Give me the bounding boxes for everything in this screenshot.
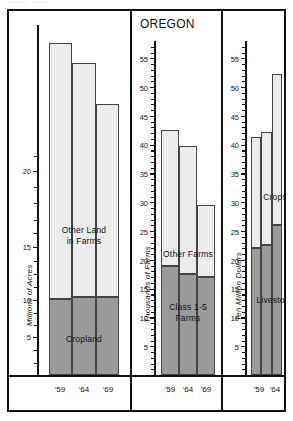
- segment-label-other-land: Other Land in Farms: [62, 225, 107, 247]
- y-tick-minor: [242, 70, 245, 71]
- segment-label-crops: Crops: [263, 192, 284, 203]
- y-tick-label: 45: [132, 112, 148, 121]
- y-tick-major: [241, 87, 246, 88]
- y-tick-major: [150, 58, 155, 59]
- y-tick-minor: [151, 76, 154, 77]
- y-tick-minor: [242, 352, 245, 353]
- segment-label-livestock: Livestock: [256, 295, 284, 306]
- y-tick-minor: [34, 363, 37, 364]
- y-tick-minor: [242, 243, 245, 244]
- x-tick-label: '59: [55, 385, 65, 394]
- y-tick-minor: [242, 127, 245, 128]
- y-tick-major: [241, 173, 246, 174]
- y-tick-minor: [34, 203, 37, 204]
- y-tick-major: [150, 202, 155, 203]
- y-tick-minor: [151, 104, 154, 105]
- y-tick-major: [150, 346, 155, 347]
- y-tick-label: 5: [132, 343, 148, 352]
- y-tick-minor: [242, 104, 245, 105]
- bar-segment-livestock: [251, 248, 261, 375]
- y-tick-label: 5: [223, 343, 239, 352]
- y-tick-major: [241, 202, 246, 203]
- y-axis-title-3: Ten Million Dollars: [234, 252, 243, 321]
- bar-segment-crops: [261, 132, 271, 245]
- panel-number-of-farms: OREGON 55 50 45 40 35 30 25 20 15 10: [132, 11, 221, 410]
- bar-segment-livestock: [261, 245, 271, 375]
- y-tick-label: 20: [11, 167, 31, 176]
- y-tick-major: [241, 346, 246, 347]
- y-tick-minor: [34, 187, 37, 188]
- y-tick-minor: [242, 214, 245, 215]
- y-tick-minor: [151, 47, 154, 48]
- y-tick-minor: [242, 335, 245, 336]
- x-tick-label: '64: [79, 385, 89, 394]
- y-tick-minor: [151, 110, 154, 111]
- y-axis-title-2: Thousands of Farms: [143, 246, 152, 323]
- y-tick-major: [150, 87, 155, 88]
- y-tick-minor: [242, 225, 245, 226]
- y-tick-minor: [151, 191, 154, 192]
- y-tick-minor: [151, 243, 154, 244]
- y-tick-minor: [151, 139, 154, 140]
- y-tick-label: 25: [223, 227, 239, 236]
- y-tick-label: 25: [132, 227, 148, 236]
- y-tick-minor: [242, 358, 245, 359]
- y-tick-minor: [151, 335, 154, 336]
- y-tick-minor: [151, 197, 154, 198]
- y-tick-minor: [242, 81, 245, 82]
- y-tick-minor: [242, 93, 245, 94]
- y-tick-minor: [151, 156, 154, 157]
- x-axis-band-3: '59 '64 '69: [223, 376, 284, 410]
- y-axis-spine-2: [154, 41, 156, 375]
- y-tick-minor: [151, 168, 154, 169]
- y-tick-major: [150, 116, 155, 117]
- y-tick-major: [241, 145, 246, 146]
- y-tick-label: 30: [223, 199, 239, 208]
- y-tick-minor: [242, 156, 245, 157]
- y-tick-label: 5: [11, 333, 31, 342]
- y-axis-title-1: Millions of Acres: [25, 265, 34, 326]
- y-tick-minor: [242, 237, 245, 238]
- y-tick-minor: [151, 225, 154, 226]
- y-axis-spine-3: [245, 41, 247, 375]
- y-tick-minor: [242, 64, 245, 65]
- y-tick-minor: [34, 287, 37, 288]
- y-tick-minor: [242, 168, 245, 169]
- segment-label-line1: Class 1-5: [169, 302, 207, 312]
- y-axis-spine-1: [37, 25, 39, 375]
- y-tick-label: 35: [132, 170, 148, 179]
- y-tick-minor: [151, 150, 154, 151]
- y-tick-minor: [242, 329, 245, 330]
- y-tick-minor: [242, 341, 245, 342]
- segment-label-line1: Other Land: [62, 225, 107, 235]
- y-tick-major: [241, 231, 246, 232]
- bar-segment-crops: [251, 137, 261, 248]
- y-tick-minor: [34, 220, 37, 221]
- y-tick-minor: [151, 179, 154, 180]
- x-tick-label: '59: [254, 385, 264, 394]
- bar-group-1: [49, 11, 119, 410]
- y-tick-minor: [151, 122, 154, 123]
- chart-frame: 20 15 10 5 Millions of Acres: [7, 9, 286, 412]
- y-tick-minor: [242, 150, 245, 151]
- y-tick-minor: [151, 208, 154, 209]
- y-tick-major: [150, 145, 155, 146]
- y-tick-minor: [242, 76, 245, 77]
- x-tick-label: '69: [103, 385, 113, 394]
- y-tick-label: 50: [223, 83, 239, 92]
- y-tick-label: 50: [132, 83, 148, 92]
- bar-segment-other-farms: [197, 205, 215, 277]
- y-tick-minor: [242, 133, 245, 134]
- y-tick-minor: [151, 133, 154, 134]
- segment-label-cropland: Cropland: [66, 334, 102, 345]
- y-tick-minor: [151, 352, 154, 353]
- y-tick-label: 30: [132, 199, 148, 208]
- y-tick-major: [33, 171, 38, 172]
- y-tick-major: [33, 337, 38, 338]
- y-tick-minor: [34, 325, 37, 326]
- x-axis-band-1: '59 '64 '69: [9, 376, 130, 410]
- y-tick-minor: [151, 53, 154, 54]
- y-tick-minor: [151, 220, 154, 221]
- y-tick-label: 55: [132, 55, 148, 64]
- y-tick-minor: [151, 323, 154, 324]
